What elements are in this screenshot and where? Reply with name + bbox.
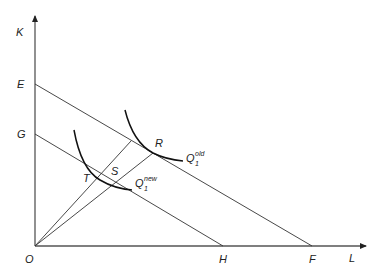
isoquant-old-label: Q 1 old [186,150,205,167]
origin-label: O [25,253,34,265]
svg-text:old: old [195,150,205,157]
isocost-line-ef [35,84,312,246]
point-r-label: R [155,137,163,149]
point-t-label: T [83,172,91,184]
ray-o-r [35,153,153,246]
isoquant-new-label: Q 1 new [135,175,158,192]
svg-text:1: 1 [195,160,199,167]
point-g-label: G [17,128,26,140]
svg-text:Q: Q [186,152,195,164]
k-axis-label: K [16,26,24,38]
isoquant-diagram: K L O E G H F R S T Q 1 old Q 1 new [0,0,380,276]
point-s-label: S [111,165,119,177]
point-f-label: F [309,253,317,265]
isoquant-q1-old [125,110,183,161]
ray-o-t [35,141,131,246]
point-e-label: E [17,78,25,90]
svg-text:Q: Q [135,177,144,189]
l-axis-label: L [349,252,355,264]
svg-text:1: 1 [144,185,148,192]
svg-text:new: new [144,175,158,182]
point-h-label: H [219,253,227,265]
